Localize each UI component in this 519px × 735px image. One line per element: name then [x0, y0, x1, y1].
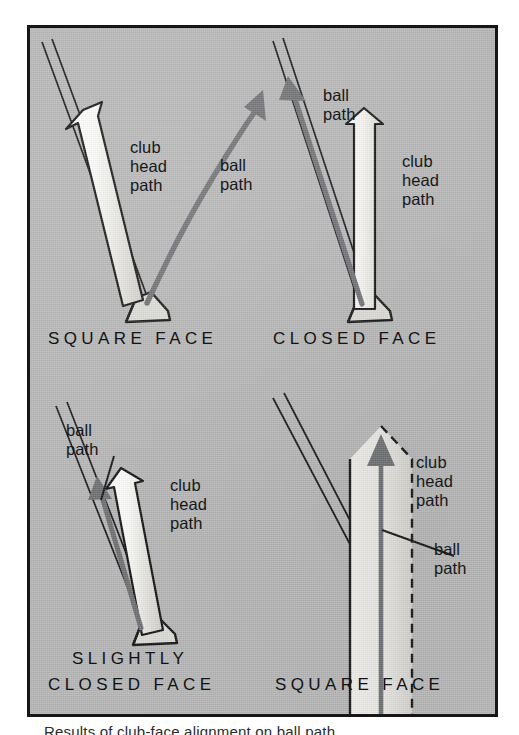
label-ball-path-p1: ball path: [220, 156, 253, 194]
panel-closed-face-top-right: [273, 38, 392, 322]
label-ball-path-p3: ball path: [66, 421, 99, 459]
caption-closed-face-p3: CLOSED FACE: [48, 674, 215, 695]
label-club-head-path-p2: club head path: [402, 152, 439, 209]
label-club-head-path-p1: club head path: [130, 138, 167, 195]
label-ball-path-p4: ball path: [434, 540, 467, 578]
label-club-head-path-p3: club head path: [170, 476, 207, 533]
club-head-path-arrow-p1: [66, 102, 143, 306]
figure-artwork: [30, 28, 495, 714]
figure-frame: club head path ball path SQUARE FACE bal…: [27, 25, 498, 717]
caption-square-face-p4: SQUARE FACE: [275, 674, 444, 695]
label-ball-path-p2: ball path: [323, 86, 356, 124]
figure-caption: Results of club-face alignment on ball p…: [44, 722, 494, 735]
panel-square-face-bottom-right: [273, 393, 454, 714]
caption-square-face-p1: SQUARE FACE: [48, 328, 217, 349]
ball-path-arrow-p1: [147, 90, 266, 303]
golf-club-face-alignment-figure: club head path ball path SQUARE FACE bal…: [0, 0, 519, 735]
label-club-head-path-p4: club head path: [416, 453, 453, 510]
caption-slightly-p3: SLIGHTLY: [72, 648, 188, 669]
caption-closed-face-p2: CLOSED FACE: [273, 328, 440, 349]
